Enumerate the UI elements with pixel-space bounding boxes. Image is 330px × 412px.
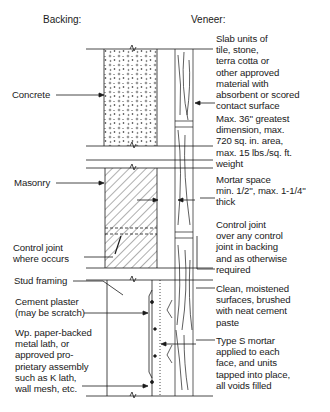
label-control-joint-veneer: Control joint over any control joint in …	[216, 219, 287, 275]
concrete-section	[86, 45, 213, 148]
label-control-joint-backing: Control joint where occurs	[13, 242, 69, 264]
label-mortar-space: Mortar space min. 1/2'', max. 1-1/4'' th…	[216, 174, 306, 208]
label-type-s-mortar: Type S mortar applied to each face, and …	[216, 335, 290, 391]
label-slab-units: Slab units of tile, stone, terra cotta o…	[216, 33, 299, 111]
stud-framing-section	[86, 276, 213, 398]
masonry-section	[86, 160, 213, 268]
label-cement-plaster: Cement plaster (may be scratch)	[15, 296, 85, 318]
label-clean-surfaces: Clean, moistened surfaces, brushed with …	[216, 283, 291, 328]
label-stud-framing: Stud framing	[14, 275, 67, 286]
label-concrete: Concrete	[12, 89, 50, 100]
label-masonry: Masonry	[14, 177, 50, 188]
label-lath: Wp. paper-backed metal lath, or approved…	[15, 327, 92, 394]
veneer-header: Veneer:	[191, 14, 225, 25]
backing-header: Backing:	[43, 14, 81, 25]
label-max-dimension: Max. 36'' greatest dimension, max. 720 s…	[216, 113, 292, 169]
